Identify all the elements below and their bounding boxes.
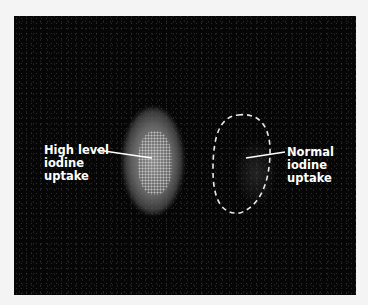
- label-line: uptake: [287, 172, 334, 185]
- high-uptake-label: High level iodine uptake: [44, 144, 109, 183]
- normal-lobe-outline: [213, 115, 270, 214]
- normal-uptake-leader: [246, 152, 285, 158]
- label-line: uptake: [44, 170, 109, 183]
- normal-uptake-label: Normal iodine uptake: [287, 146, 334, 185]
